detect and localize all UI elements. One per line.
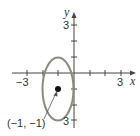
center-point xyxy=(55,86,61,92)
x-axis-label: x xyxy=(129,74,136,88)
x-tick-label-3: 3 xyxy=(117,76,123,88)
annotation-arrow-icon xyxy=(54,91,58,97)
y-axis-arrow-icon xyxy=(72,12,77,18)
y-axis-label: y xyxy=(63,5,70,19)
x-tick-label-neg3: −3 xyxy=(16,76,29,88)
center-point-label: (−1, −1) xyxy=(7,117,46,129)
y-tick-label-neg3: 3 xyxy=(63,115,69,127)
y-tick-label-3: 3 xyxy=(63,19,69,31)
ellipse-chart: y x −3 3 3 3 (−1, −1) xyxy=(0,0,140,136)
